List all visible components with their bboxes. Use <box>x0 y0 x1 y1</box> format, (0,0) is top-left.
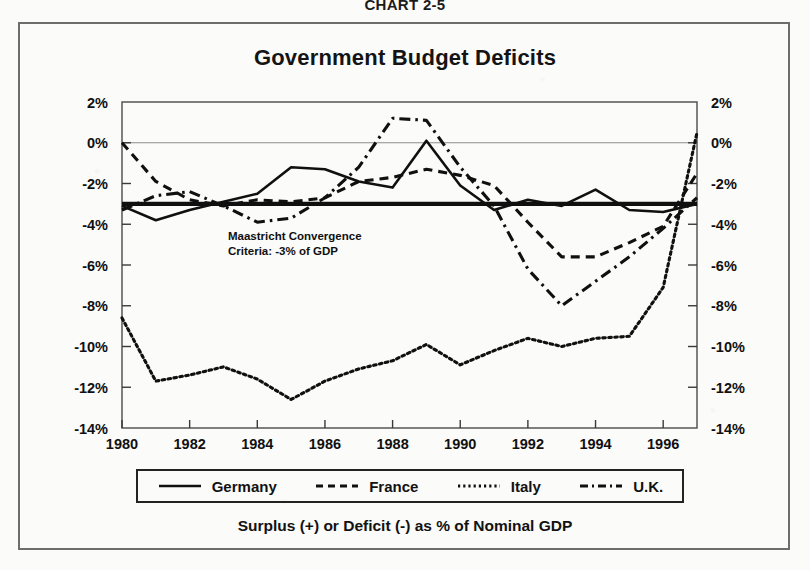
series-line-uk <box>122 118 697 305</box>
annotation-line-2: Criteria: -3% of GDP <box>228 245 338 257</box>
legend-label-france: France <box>369 478 418 495</box>
x-tick-label: 1994 <box>579 436 611 452</box>
y-axis-labels-left: 2%0%-2%-4%-6%-8%-10%-12%-14% <box>74 95 108 437</box>
legend-label-italy: Italy <box>511 478 541 495</box>
y-tick-label: 0% <box>711 135 732 151</box>
legend-swatch-germany <box>157 480 203 492</box>
y-tick-label: -6% <box>82 258 108 274</box>
y-tick-label: -8% <box>82 298 108 314</box>
axis-ticks <box>122 143 697 428</box>
x-tick-label: 1990 <box>444 436 476 452</box>
x-tick-label: 1986 <box>309 436 341 452</box>
legend-swatch-italy <box>456 480 502 492</box>
plot-axes-frame <box>122 102 697 428</box>
x-tick-label: 1988 <box>376 436 408 452</box>
y-tick-label: -12% <box>711 380 745 396</box>
y-tick-label: 2% <box>711 95 732 111</box>
y-tick-label: -10% <box>74 339 108 355</box>
series-line-germany <box>122 141 697 220</box>
y-tick-label: -4% <box>711 217 737 233</box>
legend-item-uk: U.K. <box>578 478 663 495</box>
y-tick-label: -14% <box>74 421 108 437</box>
scanned-page: CHART 2-5 Government Budget Deficits 2%0… <box>0 0 810 570</box>
chart-caption: Surplus (+) or Deficit (-) as % of Nomin… <box>0 517 810 535</box>
legend-item-italy: Italy <box>456 478 541 495</box>
y-tick-label: -2% <box>711 176 737 192</box>
y-tick-label: 0% <box>87 135 108 151</box>
y-tick-label: 2% <box>87 95 108 111</box>
x-tick-label: 1996 <box>647 436 679 452</box>
y-tick-label: -8% <box>711 298 737 314</box>
legend-swatch-france <box>314 480 360 492</box>
y-axis-labels-right: 2%0%-2%-4%-6%-8%-10%-12%-14% <box>711 95 745 437</box>
chart-legend: Germany France Italy U.K. <box>136 469 684 503</box>
data-series-group <box>122 118 697 399</box>
x-tick-label: 1982 <box>174 436 206 452</box>
y-tick-label: -12% <box>74 380 108 396</box>
legend-item-germany: Germany <box>157 478 277 495</box>
x-axis-labels: 198019821984198619881990199219941996 <box>106 436 679 452</box>
legend-swatch-uk <box>578 480 624 492</box>
y-tick-label: -2% <box>82 176 108 192</box>
annotation-line-1: Maastricht Convergence <box>228 230 362 242</box>
legend-item-france: France <box>314 478 418 495</box>
legend-label-uk: U.K. <box>633 478 663 495</box>
y-tick-label: -10% <box>711 339 745 355</box>
x-tick-label: 1980 <box>106 436 138 452</box>
y-tick-label: -14% <box>711 421 745 437</box>
x-tick-label: 1992 <box>512 436 544 452</box>
x-tick-label: 1984 <box>241 436 273 452</box>
y-tick-label: -6% <box>711 258 737 274</box>
legend-label-germany: Germany <box>212 478 277 495</box>
y-tick-label: -4% <box>82 217 108 233</box>
